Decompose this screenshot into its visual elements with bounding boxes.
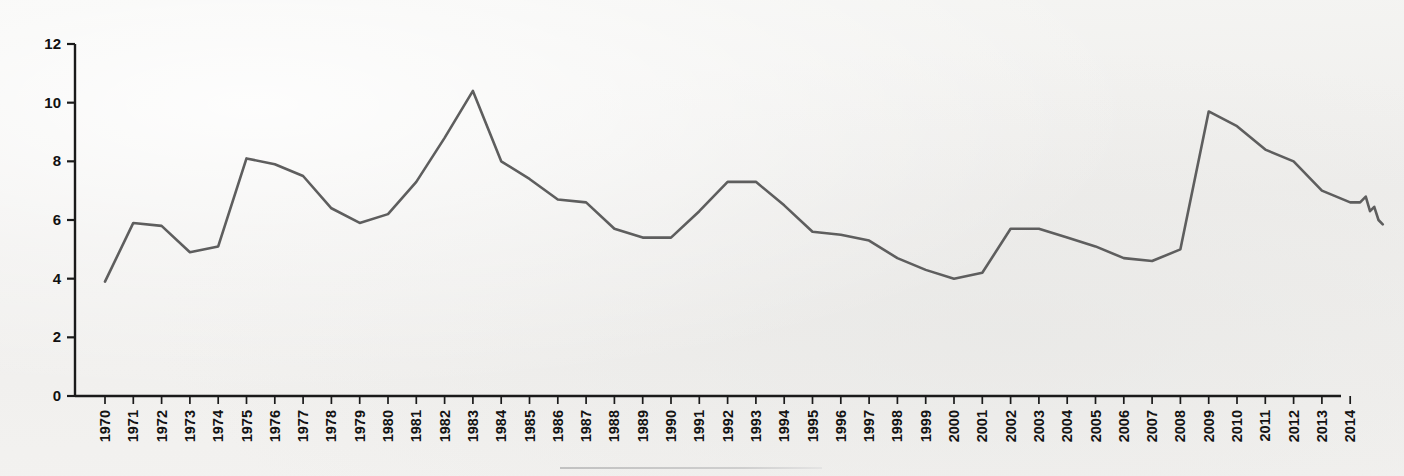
bottom-scan-artifact — [560, 467, 822, 469]
x-axis-tick-label: 2011 — [1257, 410, 1273, 441]
x-axis-tick-label: 1973 — [182, 410, 198, 442]
x-axis-tick-label: 1975 — [239, 410, 255, 442]
x-axis-tick-label: 1980 — [380, 410, 396, 442]
x-axis-tick-label: 1998 — [889, 410, 905, 442]
y-axis: 024681012 — [44, 35, 75, 404]
y-axis-tick-label: 10 — [44, 94, 61, 111]
x-axis-tick-label: 1982 — [437, 410, 453, 442]
x-axis-tick-label: 2004 — [1059, 410, 1075, 442]
x-axis-tick-label: 2009 — [1201, 410, 1217, 442]
x-axis-tick-label: 1985 — [522, 410, 538, 442]
x-axis-tick-label: 1994 — [776, 410, 792, 442]
x-axis-tick-label: 2010 — [1229, 410, 1245, 442]
x-axis-tick-label: 2012 — [1286, 410, 1302, 442]
line-chart: 024681012 197019711972197319741975197619… — [0, 0, 1404, 476]
x-axis-tick-label: 2000 — [946, 410, 962, 442]
series-line-path — [105, 91, 1383, 282]
x-axis-tick-label: 1984 — [493, 410, 509, 442]
chart-svg: 024681012 197019711972197319741975197619… — [0, 0, 1404, 476]
x-axis: 1970197119721973197419751976197719781979… — [75, 396, 1358, 442]
x-axis-tick-label: 1970 — [97, 410, 113, 442]
x-axis-tick-label: 1992 — [720, 410, 736, 442]
x-axis-tick-label: 1972 — [154, 410, 170, 442]
y-axis-tick-label: 12 — [44, 35, 61, 52]
x-axis-tick-label: 1996 — [833, 410, 849, 442]
x-axis-tick-label: 1979 — [352, 410, 368, 442]
x-axis-tick-label: 1981 — [408, 410, 424, 442]
y-axis-tick-label: 2 — [53, 328, 61, 345]
x-axis-tick-label: 1993 — [748, 410, 764, 442]
y-axis-tick-label: 4 — [53, 270, 62, 287]
x-axis-tick-label: 2001 — [974, 410, 990, 442]
x-axis-tick-label: 2008 — [1172, 410, 1188, 442]
x-axis-tick-label: 2005 — [1088, 410, 1104, 442]
x-axis-tick-label: 1999 — [918, 410, 934, 442]
y-axis-tick-label: 6 — [53, 211, 61, 228]
x-axis-tick-label: 1995 — [805, 410, 821, 442]
x-axis-tick-label: 2002 — [1003, 410, 1019, 442]
x-axis-tick-label: 1974 — [210, 410, 226, 442]
x-axis-tick-label: 2007 — [1144, 410, 1160, 442]
x-axis-tick-label: 2006 — [1116, 410, 1132, 442]
x-axis-tick-label: 1989 — [635, 410, 651, 442]
x-axis-tick-label: 2013 — [1314, 410, 1330, 442]
x-axis-tick-label: 1978 — [323, 410, 339, 442]
x-axis-tick-label: 1997 — [861, 410, 877, 442]
data-series — [105, 91, 1383, 282]
y-axis-tick-label: 0 — [53, 387, 61, 404]
x-axis-tick-label: 1990 — [663, 410, 679, 442]
x-axis-tick-label: 1987 — [578, 410, 594, 442]
x-axis-tick-label: 1991 — [691, 410, 707, 442]
x-axis-tick-label: 2014 — [1342, 410, 1358, 442]
x-axis-tick-label: 1983 — [465, 410, 481, 442]
y-axis-tick-label: 8 — [53, 152, 61, 169]
x-axis-tick-label: 1977 — [295, 410, 311, 442]
x-axis-tick-label: 1986 — [550, 410, 566, 442]
x-axis-tick-label: 1988 — [606, 410, 622, 442]
x-axis-tick-label: 1976 — [267, 410, 283, 442]
x-axis-tick-label: 2003 — [1031, 410, 1047, 442]
x-axis-tick-label: 1971 — [125, 410, 141, 442]
